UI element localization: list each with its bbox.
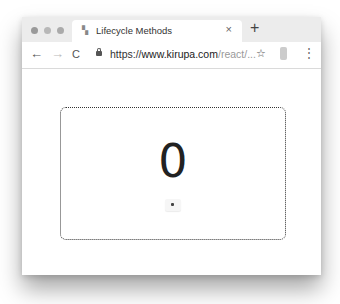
minimize-window-button[interactable] [44,27,51,34]
close-tab-icon[interactable]: × [226,23,232,35]
browser-window: ▚ Lifecycle Methods × + ← → C https://ww… [22,17,321,275]
favicon-icon: ▚ [82,27,90,35]
menu-icon[interactable]: ⋮ [303,46,315,60]
back-arrow-icon[interactable]: ← [30,46,43,61]
extension-icon[interactable] [280,47,287,60]
url-scheme: https:// [110,48,142,60]
button-dot [171,203,174,206]
reload-icon[interactable]: C [72,48,80,60]
tab-title: Lifecycle Methods [96,25,172,36]
forward-arrow-icon[interactable]: → [51,46,64,61]
counter-container: 0 [60,107,286,240]
tab-bar: ▚ Lifecycle Methods × + [22,17,321,42]
url-host: www.kirupa.com [142,48,218,60]
toolbar: ← → C https://www.kirupa.com/react/... ☆… [22,42,321,69]
counter-value: 0 [61,134,285,188]
increment-button[interactable] [165,199,181,211]
close-window-button[interactable] [31,27,38,34]
url-path: /react/... [218,48,256,60]
address-bar[interactable]: https://www.kirupa.com/react/... [110,48,256,60]
tab-lifecycle-methods[interactable]: ▚ Lifecycle Methods × [72,20,242,42]
page-content: 0 [22,69,321,275]
maximize-window-button[interactable] [57,27,64,34]
new-tab-button[interactable]: + [250,19,259,37]
lock-icon [96,51,102,56]
bookmark-star-icon[interactable]: ☆ [256,47,266,60]
